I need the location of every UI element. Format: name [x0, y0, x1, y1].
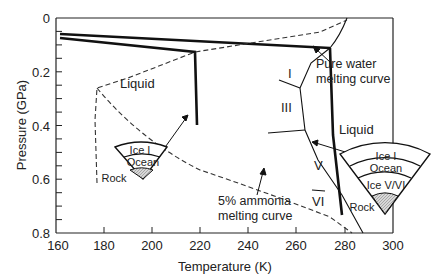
right-inset-ice-label: Ice I: [376, 150, 397, 162]
svg-text:280: 280: [334, 238, 356, 253]
y-tick-labels: 0 0.2 0.4 0.6 0.8: [32, 11, 50, 241]
region-ice-vi: VI: [312, 194, 324, 209]
svg-text:260: 260: [285, 238, 307, 253]
svg-text:200: 200: [141, 238, 163, 253]
x-axis-title: Temperature (K): [178, 259, 272, 274]
svg-text:0.2: 0.2: [32, 65, 50, 80]
svg-text:300: 300: [382, 238, 404, 253]
pure-water-label-line1: Pure water: [316, 57, 376, 71]
right-inset-icehp-label: Ice V/VI: [367, 179, 406, 191]
right-inset-ocean-label: Ocean: [370, 162, 402, 174]
svg-text:160: 160: [47, 238, 69, 253]
right-body-inset: Ice I Ocean Ice V/VI Rock: [340, 143, 430, 214]
region-ice-i: I: [288, 66, 292, 81]
left-inset-ice-label: Ice I: [130, 144, 151, 156]
thick-phase-lines: [60, 34, 342, 215]
x-axis-ticks: [104, 227, 345, 233]
svg-text:0.6: 0.6: [32, 172, 50, 187]
svg-text:240: 240: [237, 238, 259, 253]
region-liquid-left: Liquid: [120, 76, 155, 91]
region-ice-v: V: [314, 158, 323, 173]
annotation-labels: Pure water melting curve 5% ammonia melt…: [218, 57, 390, 223]
left-inset-ocean-label: Ocean: [127, 156, 159, 168]
region-ice-iii: III: [281, 100, 292, 115]
region-labels: Liquid I III Liquid V VI: [120, 66, 374, 209]
ammonia-label-line2: melting curve: [218, 209, 292, 223]
left-inset-rock-label: Rock: [101, 172, 127, 184]
svg-text:0: 0: [43, 11, 50, 26]
svg-text:220: 220: [189, 238, 211, 253]
ammonia-label-line1: 5% ammonia: [218, 194, 291, 208]
pure-water-label-line2: melting curve: [316, 72, 390, 86]
phase-diagram: 0 0.2 0.4 0.6 0.8 160 180 200 220 240 26…: [0, 0, 447, 280]
left-body-inset: Ice I Ocean Rock: [101, 142, 167, 184]
y-axis-ticks: [56, 31, 62, 219]
x-tick-labels: 160 180 200 220 240 260 280 300: [47, 238, 404, 253]
y-axis-title: Pressure (GPa): [14, 80, 29, 170]
svg-text:180: 180: [93, 238, 115, 253]
svg-text:0.4: 0.4: [32, 119, 50, 134]
region-liquid-right: Liquid: [339, 122, 374, 137]
right-inset-rock-label: Rock: [349, 201, 375, 213]
